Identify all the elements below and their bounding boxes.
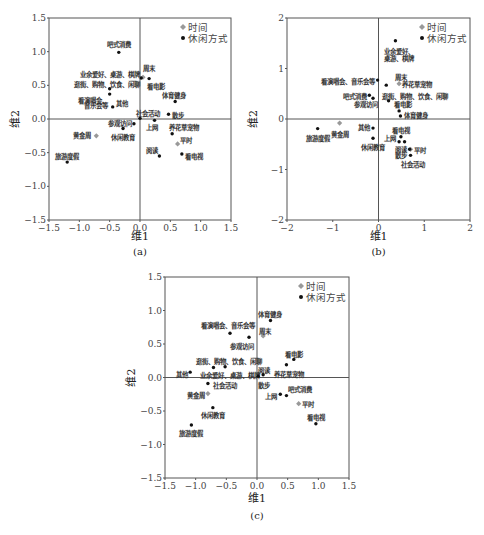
leisure-point-marker [206,382,209,385]
y-tick-label: −1.5 [24,215,46,225]
point-label: 社会活动 [135,109,161,118]
point-label: 休闲教育 [110,133,136,142]
leisure-point-marker [261,373,264,376]
x-tick-label: 1.0 [311,481,326,491]
y-tick-label: −0.5 [24,148,46,158]
y-tick-label: 2 [278,13,284,23]
leisure-point-marker [385,83,388,86]
point-label: 休闲教育 [360,143,386,152]
point-label: 业余爱好、桌游、棋牌 [200,371,261,380]
legend-dot-icon [420,36,424,40]
point-label: 参观访问 [354,100,378,109]
point-label: 吧式消费 [107,40,132,49]
x-tick-label: −1.0 [68,223,90,233]
point-label: 社会活动 [400,160,426,169]
x-tick-label: 1.5 [224,223,239,233]
leisure-point-marker [397,109,400,112]
leisure-point-marker [66,160,69,163]
point-label: 看电影 [394,100,413,109]
point-label: 其他 [176,370,189,379]
point-label: 体育健身 [258,310,283,319]
legend-dot-icon [181,36,185,40]
point-label: 旅游度假 [179,429,204,438]
point-label: 周末 [143,64,156,73]
y-axis-label: 维2 [9,110,22,128]
y-tick-label: 1.0 [32,47,47,57]
leisure-point-marker [108,92,111,95]
point-label: 参观访问 [108,119,132,128]
point-label: 上网 [384,134,396,143]
leisure-point-marker [247,336,250,339]
point-label: 桌游、棋牌 [384,54,415,63]
point-label: 平时 [302,400,315,409]
y-tick-label: 1.5 [32,13,47,23]
legend-dot-icon [299,295,303,299]
point-label: 黄金周 [331,130,349,139]
panel-caption: (a) [133,246,147,257]
x-tick-label: 0.5 [163,223,178,233]
x-tick-label: 0.0 [250,481,265,491]
time-point-marker [337,120,342,125]
time-point-marker [205,391,210,396]
x-tick-label: 0.5 [281,481,296,491]
y-tick-label: −1.0 [24,181,46,191]
figure-canvas: −1.5−1.0−0.50.00.51.01.5−1.5−1.0−0.50.00… [0,0,484,535]
point-label: 体育健身 [162,91,187,100]
y-tick-label: 1.5 [148,272,163,282]
y-tick-label: 1 [278,64,284,74]
chart-panel-c: −1.5−1.0−0.50.00.51.01.5−1.5−1.0−0.50.00… [125,272,356,521]
leisure-point-marker [269,319,272,322]
leisure-point-marker [153,119,156,122]
point-label: 看演唱会、音乐会等 [321,77,376,86]
point-label: 旅游度假 [55,152,80,161]
leisure-point-marker [399,114,402,117]
y-tick-label: −1.0 [140,440,162,450]
point-label: 周末 [259,327,272,336]
leisure-point-marker [228,332,231,335]
point-label: 社会活动 [212,381,238,390]
leisure-point-marker [170,132,173,135]
point-label: 养花草宠物 [401,80,433,89]
leisure-point-marker [132,122,135,125]
point-label: 散步 [172,111,185,120]
point-label: 黄金周 [187,391,205,400]
point-label: 看电视 [185,152,204,161]
point-label: 上网 [146,123,158,132]
y-tick-label: −1.5 [140,473,162,483]
y-tick-label: −2 [271,215,284,225]
legend-label: 休闲方式 [188,33,228,44]
panel-caption: (c) [250,510,264,521]
point-label: 看电影 [147,82,166,91]
x-axis-label: 维1 [370,230,388,243]
point-label: 看电视 [392,126,411,135]
legend-label: 休闲方式 [427,33,467,44]
leisure-point-marker [158,154,161,157]
y-tick-label: −0.5 [140,406,162,416]
point-label: 散步 [258,381,271,390]
y-tick-label: 0.5 [148,339,163,349]
leisure-point-marker [394,39,397,42]
legend-diamond-icon [298,283,304,289]
chart-panel-a: −1.5−1.0−0.50.00.51.01.5−1.5−1.0−0.50.00… [9,13,238,257]
point-label: 上网 [265,392,277,401]
leisure-point-marker [316,127,319,130]
leisure-point-marker [223,365,226,368]
leisure-point-marker [212,366,215,369]
y-tick-label: 0.5 [32,80,47,90]
leisure-point-marker [397,140,400,143]
point-label: 音乐会等 [84,101,109,110]
x-tick-label: −1.0 [185,481,207,491]
leisure-point-marker [121,127,124,130]
leisure-point-marker [371,136,374,139]
legend-diamond-icon [180,24,186,30]
legend-diamond-icon [419,24,425,30]
point-label: 逛街、购物、饮食、闲聊 [74,80,141,89]
x-tick-label: −0.5 [215,481,237,491]
leisure-point-marker [403,140,406,143]
x-tick-label: −1 [326,223,339,233]
point-label: 阅读 [258,366,271,375]
point-label: 旅游度假 [306,134,331,143]
leisure-point-marker [285,394,288,397]
leisure-point-marker [399,135,402,138]
leisure-point-marker [188,370,191,373]
